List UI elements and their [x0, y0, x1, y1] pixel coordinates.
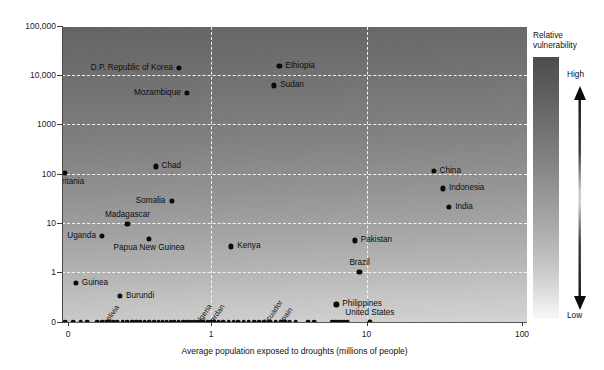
- double-headed-vertical-arrow-icon: [571, 86, 589, 310]
- x-tick-mark: [522, 322, 523, 326]
- data-point-label: Chad: [162, 162, 182, 170]
- legend-high-label: High: [567, 70, 584, 78]
- x-tick-label: 100: [515, 330, 529, 339]
- data-point-label: Uganda: [67, 232, 96, 240]
- data-point-label: Burundi: [126, 292, 154, 300]
- y-tick-label: 100,000: [25, 22, 56, 31]
- data-point-label: India: [455, 203, 473, 211]
- y-tick-mark: [57, 322, 63, 323]
- data-point-label: Guinea: [82, 279, 108, 287]
- x-axis-line: [62, 322, 527, 323]
- x-tick-mark: [68, 322, 69, 326]
- x-tick-label: 1: [209, 330, 214, 339]
- legend-title-line2: vulnerability: [533, 40, 577, 50]
- legend-title: Relative vulnerability: [533, 30, 603, 51]
- y-tick-label: 1000: [37, 120, 56, 129]
- y-tick-mark: [57, 75, 63, 76]
- data-point-label: Brazil: [349, 259, 369, 267]
- data-point-label: Mauritania: [62, 178, 84, 186]
- y-tick-label: 100: [42, 169, 56, 178]
- y-tick-mark: [57, 272, 63, 273]
- y-tick-label: 10,000: [30, 71, 56, 80]
- y-tick-mark: [57, 124, 63, 125]
- y-tick-label: 10: [47, 219, 56, 228]
- data-point-label: Madagascar: [105, 211, 150, 219]
- data-point-label: United States: [345, 309, 394, 317]
- data-point-label: China: [440, 167, 461, 175]
- y-tick-mark: [57, 223, 63, 224]
- y-tick-label: 1: [51, 268, 56, 277]
- data-point-label: Kenya: [237, 242, 260, 250]
- x-tick-label: 10: [362, 330, 371, 339]
- data-point-label: Indonesia: [449, 184, 485, 192]
- x-tick-mark: [367, 322, 368, 326]
- legend-title-line1: Relative: [533, 30, 563, 40]
- x-axis-title: Average population exposed to droughts (…: [62, 346, 527, 356]
- data-point-label: Somalia: [136, 197, 166, 205]
- x-tick-mark: [211, 322, 212, 326]
- y-tick-mark: [57, 174, 63, 175]
- y-axis-line: [62, 27, 63, 323]
- data-point-label: Pakistan: [361, 236, 392, 244]
- data-point-label: Ethiopia: [285, 62, 315, 70]
- data-point-label: Papua New Guinea: [114, 244, 185, 252]
- data-point-label: Mozambique: [134, 89, 181, 97]
- y-tick-label: 0: [51, 318, 56, 327]
- legend-gradient-bar: [533, 57, 559, 319]
- x-tick-label: 0: [66, 330, 71, 339]
- data-point-label: D.P. Republic of Korea: [91, 64, 173, 72]
- data-point-label: Sudan: [280, 81, 304, 89]
- y-tick-mark: [57, 26, 63, 27]
- scatter-chart-figure: D.P. Republic of KoreaEthiopiaSudanMozam…: [0, 0, 604, 370]
- plot-area: D.P. Republic of KoreaEthiopiaSudanMozam…: [62, 27, 527, 323]
- legend-low-label: Low: [567, 311, 582, 319]
